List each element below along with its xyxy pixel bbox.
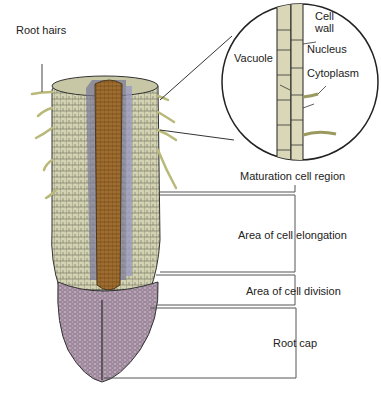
label-vacuole: Vacuole — [234, 52, 273, 64]
label-division: Area of cell division — [246, 285, 341, 297]
label-nucleus: Nucleus — [307, 43, 347, 55]
label-cell-wall-1: Cell — [315, 10, 334, 22]
label-cell-wall-2: wall — [315, 22, 334, 34]
root-body — [52, 76, 160, 382]
label-cytoplasm: Cytoplasm — [307, 67, 359, 79]
label-root-hairs: Root hairs — [16, 24, 66, 36]
root-diagram — [0, 0, 381, 405]
label-root-cap: Root cap — [273, 337, 317, 349]
cell-inset — [222, 0, 378, 170]
label-elongation: Area of cell elongation — [238, 229, 347, 241]
label-maturation: Maturation cell region — [240, 170, 345, 182]
